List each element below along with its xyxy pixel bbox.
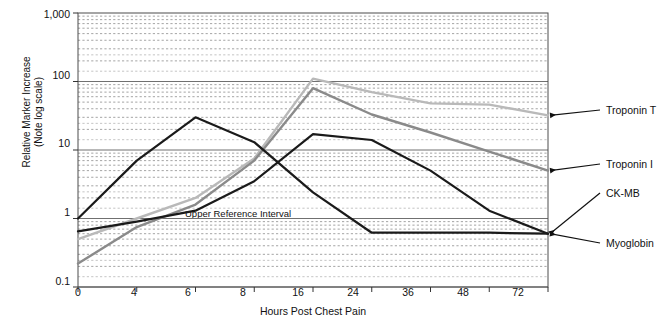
leader-arrows: [550, 110, 600, 243]
leader-arrow-myoglobin: [550, 234, 600, 243]
series-line-troponin-i: [78, 88, 548, 263]
marker-kinetics-chart: Relative Marker Increase (Note log scale…: [0, 0, 659, 327]
plot-svg: [0, 0, 659, 327]
leader-arrow-troponin-i: [550, 164, 600, 171]
leader-arrow-troponin-t: [550, 110, 600, 115]
series-lines: [78, 79, 548, 264]
series-line-troponin-t: [78, 79, 548, 239]
leader-arrow-ck-mb: [550, 193, 600, 234]
